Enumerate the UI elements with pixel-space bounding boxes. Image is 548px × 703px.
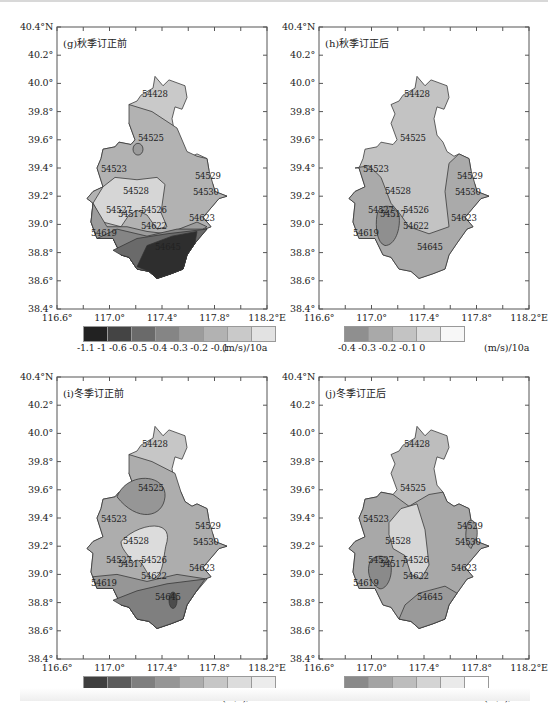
colorbar-swatch: [345, 327, 369, 341]
station-label: 54517: [118, 209, 144, 219]
y-tick-label: 38.6°: [13, 275, 53, 286]
x-tick-label: 117.0°: [352, 662, 392, 673]
x-tick-label: 116.6°: [299, 312, 339, 323]
y-tick-label: 39.6°: [13, 484, 53, 495]
panel-title: (h)秋季订正后: [325, 35, 389, 50]
colorbar-swatch: [441, 327, 464, 341]
station-label: 54528: [123, 186, 149, 196]
colorbar-swatch: [228, 327, 252, 341]
panel-title: (i)冬季订正前: [63, 385, 124, 400]
contour-map: [274, 0, 548, 345]
station-label: 54645: [155, 592, 181, 602]
station-label: 54622: [403, 571, 429, 581]
station-label: 54523: [363, 164, 389, 174]
x-tick-label: 116.6°: [37, 312, 77, 323]
map-panel-h: (h)秋季订正后40.4°N40.2°40.0°39.8°39.6°39.4°3…: [274, 0, 548, 345]
x-tick-label: 117.4°: [142, 312, 182, 323]
x-tick-label: 116.6°: [299, 662, 339, 673]
colorbar: [344, 326, 465, 342]
station-label: 54623: [189, 563, 215, 573]
x-tick-label: 118.2°E: [509, 662, 548, 673]
y-tick-label: 40.0°: [275, 427, 315, 438]
station-label: 54525: [138, 133, 164, 143]
x-tick-label: 117.0°: [90, 662, 130, 673]
x-tick-label: 118.2°E: [509, 312, 548, 323]
y-tick-label: 40.4°N: [275, 371, 315, 382]
station-label: 54517: [380, 559, 406, 569]
y-tick-label: 39.8°: [13, 106, 53, 117]
colorbar-swatch: [84, 327, 108, 341]
y-tick-label: 40.0°: [275, 77, 315, 88]
x-tick-label: 117.4°: [404, 662, 444, 673]
station-label: 54619: [353, 578, 379, 588]
y-tick-label: 39.2°: [13, 540, 53, 551]
map-panel-g: (g)秋季订正前40.4°N40.2°40.0°39.8°39.6°39.4°3…: [0, 0, 274, 345]
x-tick-label: 117.8°: [195, 662, 235, 673]
x-tick-label: 117.4°: [142, 662, 182, 673]
colorbar-swatch: [252, 327, 275, 341]
station-label: 54619: [91, 578, 117, 588]
station-label: 54530: [193, 187, 219, 197]
y-tick-label: 40.4°N: [13, 21, 53, 32]
station-label: 54526: [141, 555, 167, 565]
station-label: 54529: [195, 171, 221, 181]
y-tick-label: 39.8°: [13, 456, 53, 467]
y-tick-label: 39.4°: [275, 512, 315, 523]
y-tick-label: 39.8°: [275, 106, 315, 117]
station-label: 54523: [101, 514, 127, 524]
panel-title: (j)冬季订正后: [325, 385, 386, 400]
y-tick-label: 38.6°: [13, 625, 53, 636]
station-label: 54528: [123, 536, 149, 546]
y-tick-label: 38.8°: [275, 597, 315, 608]
colorbar-swatch: [108, 327, 132, 341]
colorbar-swatch: [393, 327, 417, 341]
station-label: 54623: [189, 213, 215, 223]
station-label: 54428: [142, 439, 168, 449]
station-label: 54530: [193, 537, 219, 547]
colorbar-swatch: [132, 327, 156, 341]
y-tick-label: 38.8°: [13, 597, 53, 608]
y-tick-label: 39.0°: [13, 218, 53, 229]
colorbar: [83, 326, 276, 342]
y-tick-label: 39.2°: [275, 540, 315, 551]
station-label: 54428: [404, 89, 430, 99]
station-label: 54525: [400, 133, 426, 143]
map-panel-i: (i)冬季订正前40.4°N40.2°40.0°39.8°39.6°39.4°3…: [0, 350, 274, 695]
y-tick-label: 39.6°: [275, 484, 315, 495]
y-tick-label: 40.0°: [13, 77, 53, 88]
station-label: 54517: [118, 559, 144, 569]
y-tick-label: 39.4°: [275, 162, 315, 173]
y-tick-label: 39.4°: [13, 162, 53, 173]
station-label: 54526: [403, 205, 429, 215]
station-label: 54523: [101, 164, 127, 174]
y-tick-label: 39.2°: [275, 190, 315, 201]
y-tick-label: 40.2°: [13, 49, 53, 60]
station-label: 54528: [385, 536, 411, 546]
x-tick-label: 117.8°: [195, 312, 235, 323]
y-tick-label: 38.8°: [275, 247, 315, 258]
station-label: 54526: [403, 555, 429, 565]
station-label: 54622: [141, 221, 167, 231]
station-label: 54428: [404, 439, 430, 449]
y-tick-label: 40.2°: [275, 399, 315, 410]
station-label: 54530: [455, 187, 481, 197]
station-label: 54529: [457, 521, 483, 531]
x-tick-label: 117.0°: [352, 312, 392, 323]
map-panel-j: (j)冬季订正后40.4°N40.2°40.0°39.8°39.6°39.4°3…: [274, 350, 548, 695]
x-tick-label: 117.0°: [90, 312, 130, 323]
colorbar-swatch: [204, 327, 228, 341]
y-tick-label: 39.8°: [275, 456, 315, 467]
station-label: 54619: [91, 228, 117, 238]
y-tick-label: 40.2°: [13, 399, 53, 410]
colorbar-swatch: [417, 327, 441, 341]
station-label: 54622: [141, 571, 167, 581]
colorbar-swatch: [156, 327, 180, 341]
y-tick-label: 39.0°: [275, 568, 315, 579]
y-tick-label: 40.0°: [13, 427, 53, 438]
station-label: 54528: [385, 186, 411, 196]
station-label: 54622: [403, 221, 429, 231]
station-label: 54645: [155, 242, 181, 252]
y-tick-label: 39.6°: [275, 134, 315, 145]
colorbar-swatch: [369, 327, 393, 341]
contour-map: [274, 350, 548, 695]
